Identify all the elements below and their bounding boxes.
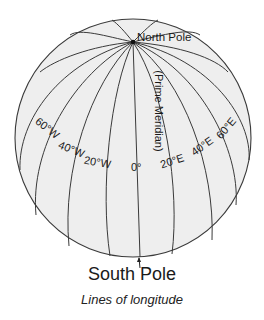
figure-caption: Lines of longitude bbox=[0, 292, 264, 307]
south-pole-label: South Pole bbox=[0, 264, 264, 285]
north-pole-dot bbox=[131, 40, 135, 44]
north-pole-label: North Pole bbox=[137, 31, 191, 43]
longitude-label-0: 0° bbox=[131, 161, 142, 173]
prime-meridian-label: (Prime Meridian) bbox=[153, 69, 165, 153]
globe bbox=[15, 19, 251, 268]
